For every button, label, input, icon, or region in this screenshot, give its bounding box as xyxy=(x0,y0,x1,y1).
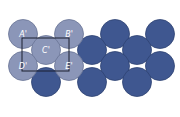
atom-label: E' xyxy=(65,62,72,71)
atom xyxy=(123,68,152,97)
close-packed-diagram: A'B'C'D'E' xyxy=(0,0,180,117)
atom-label: A' xyxy=(18,30,27,39)
atom-label: B' xyxy=(65,30,73,39)
atom-label: D' xyxy=(19,62,27,71)
atom-label: C' xyxy=(42,46,50,55)
